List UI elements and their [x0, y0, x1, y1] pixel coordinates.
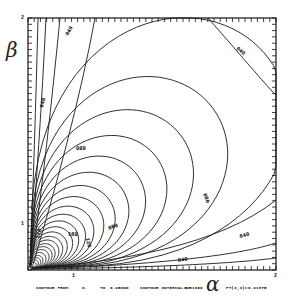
contour-label: 040: [235, 45, 247, 57]
contour-label: 080: [201, 192, 211, 204]
footer-pt-value: 0.21875: [248, 285, 267, 290]
footer-from-value: 0.: [82, 285, 87, 290]
footer-to-label: TO: [100, 285, 105, 290]
y-tick-2: 2: [21, 15, 24, 21]
footer-from-label: CONTOUR FROM: [36, 285, 68, 290]
y-tick-1: 1: [21, 221, 24, 227]
y-axis-label: β: [6, 38, 18, 62]
contour-label: 160: [68, 231, 78, 238]
contour-label: 080: [107, 222, 119, 232]
contour-label: 080: [76, 145, 86, 152]
footer-interval-value: 0.01000: [184, 285, 203, 290]
contour-label: 040: [38, 97, 47, 108]
x-tick-1: 1: [72, 273, 75, 279]
contour-label: 040: [239, 231, 250, 240]
footer-to-value: 0.25000: [110, 285, 129, 290]
contour-plot: 040040040040040080080080120120160: [0, 0, 296, 301]
contour-label: 120: [84, 237, 93, 248]
contour-lines: [30, 18, 276, 269]
x-axis-label: α: [206, 272, 220, 296]
contour-label: 040: [177, 256, 188, 264]
contour-label: 040: [64, 25, 75, 37]
footer-pt-label: PT(3,3)=: [226, 285, 247, 290]
x-tick-2: 2: [274, 273, 277, 279]
